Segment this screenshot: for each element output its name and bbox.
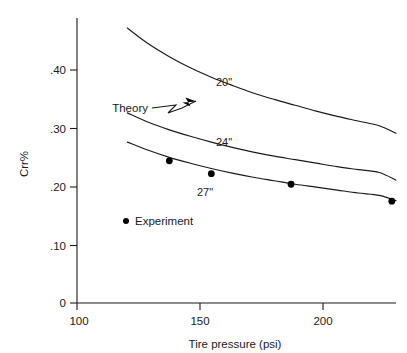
theory-curve-24in — [127, 113, 396, 180]
experiment-point — [388, 198, 395, 205]
experiment-point — [166, 157, 173, 164]
y-tick-label-40: .40 — [50, 64, 66, 76]
theory-curve-27in — [127, 142, 396, 201]
series-label-24in: 24" — [216, 136, 232, 148]
theory-annotation-label: Theory — [112, 102, 148, 114]
y-tick-label-10: .10 — [50, 240, 66, 252]
theory-curve-20in — [127, 28, 396, 133]
y-tick-label-0: 0 — [60, 297, 66, 309]
y-tick-label-20: .20 — [50, 181, 66, 193]
series-label-20in: 20" — [216, 76, 232, 88]
x-tick-label-150: 150 — [190, 315, 209, 327]
x-axis-title: Tire pressure (psi) — [189, 338, 282, 350]
experiment-point — [208, 170, 215, 177]
y-tick-label-30: .30 — [50, 123, 66, 135]
series-label-27in: 27" — [197, 186, 213, 198]
experiment-legend-label: Experiment — [135, 215, 194, 227]
x-tick-label-200: 200 — [313, 315, 332, 327]
theory-leader-line — [152, 101, 196, 113]
experiment-legend-marker-icon — [123, 218, 129, 224]
chart-figure: .40 .30 .20 .10 0 100 150 200 Tire press… — [0, 0, 407, 353]
x-tick-label-100: 100 — [69, 315, 88, 327]
crr-vs-tire-pressure-chart: .40 .30 .20 .10 0 100 150 200 Tire press… — [0, 0, 407, 353]
y-axis-title: Crr% — [18, 151, 30, 177]
experiment-point — [288, 181, 295, 188]
